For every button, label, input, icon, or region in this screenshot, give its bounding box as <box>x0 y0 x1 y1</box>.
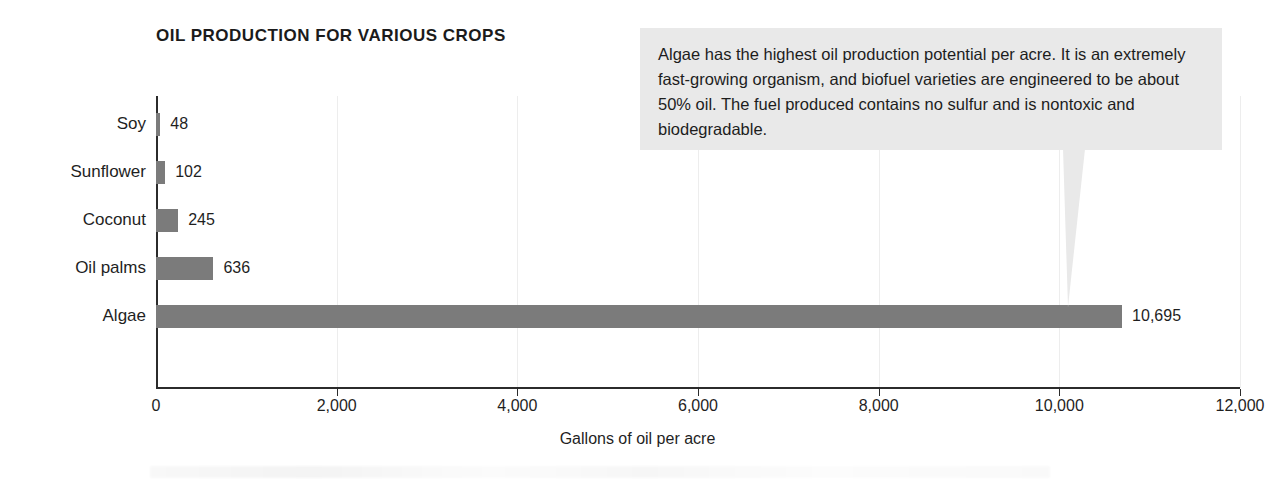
tick-mark <box>698 389 699 396</box>
category-label-coconut: Coconut <box>83 208 146 231</box>
x-tick-label: 12,000 <box>1216 397 1265 415</box>
category-label-algae: Algae <box>103 304 146 327</box>
bar-coconut[interactable] <box>156 209 178 232</box>
bar-value-soy: 48 <box>170 112 188 135</box>
category-label-oil-palms: Oil palms <box>75 256 146 279</box>
bar-sunflower[interactable] <box>156 161 165 184</box>
bar-value-algae: 10,695 <box>1132 304 1181 327</box>
bar-value-coconut: 245 <box>188 208 215 231</box>
bar-value-oil-palms: 636 <box>223 256 250 279</box>
x-tick-label: 6,000 <box>678 397 718 415</box>
tick-mark <box>517 389 518 396</box>
tick-mark <box>1240 389 1241 396</box>
category-label-soy: Soy <box>117 112 146 135</box>
x-tick-label: 10,000 <box>1035 397 1084 415</box>
bar-soy[interactable] <box>156 113 160 136</box>
bar-oil-palms[interactable] <box>156 257 213 280</box>
bar-algae[interactable] <box>156 305 1122 328</box>
page-title: OIL PRODUCTION FOR VARIOUS CROPS <box>156 26 506 46</box>
x-tick-label: 8,000 <box>859 397 899 415</box>
x-axis-title: Gallons of oil per acre <box>0 430 1275 448</box>
category-label-sunflower: Sunflower <box>70 160 146 183</box>
x-tick-label: 2,000 <box>317 397 357 415</box>
callout-box: Algae has the highest oil production pot… <box>640 28 1222 150</box>
tick-mark <box>1059 389 1060 396</box>
x-tick-label: 0 <box>152 397 161 415</box>
bar-value-sunflower: 102 <box>175 160 202 183</box>
tick-mark <box>879 389 880 396</box>
callout-text: Algae has the highest oil production pot… <box>658 42 1204 142</box>
tick-mark <box>337 389 338 396</box>
scan-artifact <box>150 466 1050 478</box>
gridline <box>1240 96 1241 388</box>
callout-tail-icon <box>1063 149 1103 307</box>
x-tick-label: 4,000 <box>497 397 537 415</box>
